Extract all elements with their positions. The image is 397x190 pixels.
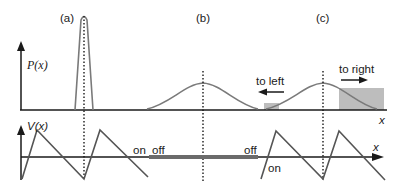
off-label-left: off [152, 144, 165, 156]
panel-label-b: (b) [196, 12, 210, 24]
right-arrow-icon [341, 77, 368, 84]
sawtooth-left [22, 130, 148, 179]
shaded-right-tail [339, 88, 384, 110]
to-right-label: to right [339, 63, 375, 75]
on-label-right: on [268, 162, 281, 174]
top-x-label: x [378, 114, 386, 126]
left-arrow-icon [258, 89, 284, 96]
p-axis-label: P(x) [26, 58, 48, 72]
probability-axis [17, 41, 387, 110]
v-axis-label: V(x) [27, 120, 48, 132]
bottom-x-label: x [372, 141, 380, 153]
ratchet-diagram: (a) (b) (c) P(x) x V(x) x to left to rig… [0, 0, 397, 190]
to-left-label: to left [256, 75, 285, 87]
panel-label-a: (a) [60, 12, 74, 24]
off-label-right: off [244, 144, 257, 156]
x-arrow-icon [372, 153, 384, 161]
panel-label-c: (c) [316, 12, 330, 24]
potential-axis [17, 125, 384, 180]
on-label-left: on [133, 144, 146, 156]
v-arrow-icon [17, 125, 25, 135]
y-arrow-icon [17, 41, 25, 51]
